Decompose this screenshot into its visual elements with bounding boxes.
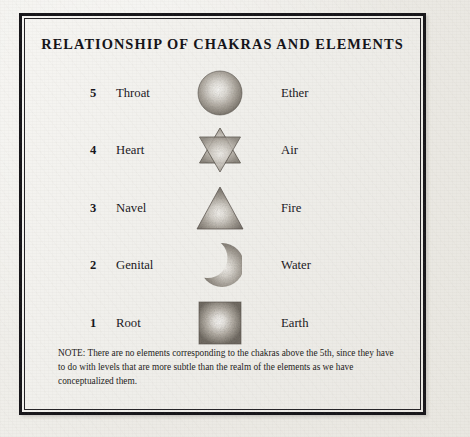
crescent-icon bbox=[189, 237, 251, 293]
chakra-table: 5 Throat bbox=[22, 64, 423, 352]
row-chakra: Heart bbox=[116, 143, 144, 158]
row-chakra: Genital bbox=[116, 258, 153, 273]
table-row: 5 Throat bbox=[22, 64, 423, 122]
table-row: 2 Genital bbox=[22, 237, 423, 295]
row-number: 4 bbox=[86, 143, 100, 158]
row-element: Ether bbox=[281, 85, 308, 100]
triangle-icon bbox=[189, 180, 251, 236]
row-number: 2 bbox=[86, 258, 100, 273]
row-element: Fire bbox=[281, 200, 301, 215]
note-block: NOTE: There are no elements correspondin… bbox=[58, 346, 397, 389]
row-number: 1 bbox=[86, 315, 100, 330]
table-row: 3 Navel bbox=[22, 179, 423, 237]
row-element: Earth bbox=[281, 315, 308, 330]
row-chakra: Navel bbox=[116, 200, 146, 215]
table-row: 1 Root bbox=[22, 294, 423, 352]
row-element: Air bbox=[281, 143, 298, 158]
decorative-frame: RELATIONSHIP OF CHAKRAS AND ELEMENTS 5 T… bbox=[19, 13, 426, 415]
sphere-icon bbox=[189, 65, 251, 121]
hexagram-icon bbox=[189, 122, 251, 178]
table-row: 4 Heart bbox=[22, 122, 423, 180]
page-title: RELATIONSHIP OF CHAKRAS AND ELEMENTS bbox=[22, 36, 423, 53]
document-page: RELATIONSHIP OF CHAKRAS AND ELEMENTS 5 T… bbox=[0, 0, 470, 437]
note-text: NOTE: There are no elements correspondin… bbox=[58, 348, 394, 386]
row-chakra: Throat bbox=[116, 85, 150, 100]
row-element: Water bbox=[281, 258, 311, 273]
row-number: 3 bbox=[86, 200, 100, 215]
frame-content: RELATIONSHIP OF CHAKRAS AND ELEMENTS 5 T… bbox=[22, 16, 423, 412]
row-chakra: Root bbox=[116, 315, 141, 330]
square-icon bbox=[189, 295, 251, 351]
row-number: 5 bbox=[86, 85, 100, 100]
